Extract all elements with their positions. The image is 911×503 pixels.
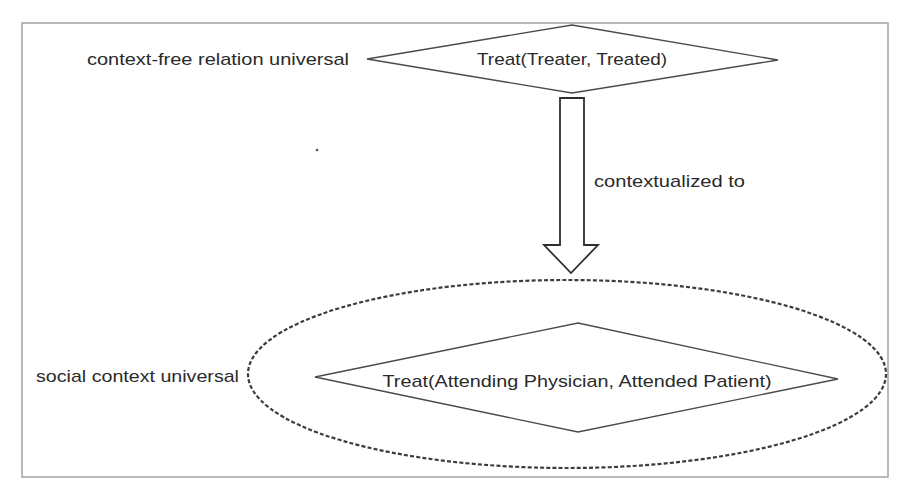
diagram-frame [22,23,888,477]
top-relation-text: Treat(Treater, Treated) [477,50,667,69]
social-context-label: social context universal [36,367,239,386]
context-free-relation-label: context-free relation universal [87,50,349,69]
bottom-relation-text: Treat(Attending Physician, Attended Pati… [383,372,772,391]
diagram-canvas: Treat(Treater, Treated) context-free rel… [0,0,911,503]
contextualized-to-label: contextualized to [594,172,745,191]
scan-artifact [316,149,319,152]
